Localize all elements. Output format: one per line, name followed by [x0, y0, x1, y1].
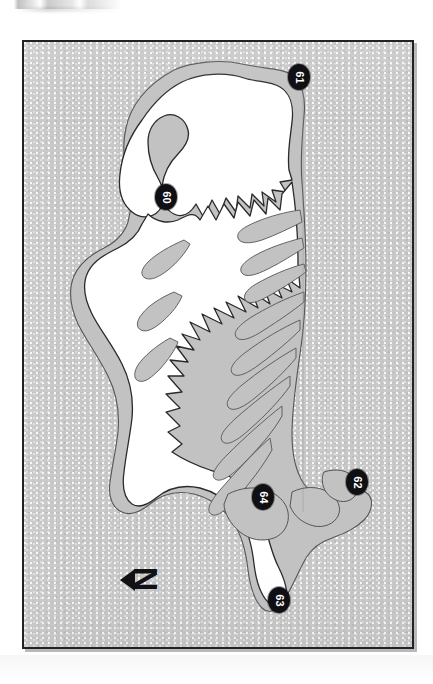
site-marker-62[interactable]: 62: [346, 469, 368, 495]
site-marker-60[interactable]: 60: [155, 184, 177, 210]
scan-artifact-top-secondary: [16, 7, 120, 12]
site-marker-64[interactable]: 64: [252, 484, 274, 510]
figure-page: 60 61 62 63 64 N: [0, 0, 433, 684]
map-coastline-svg: [24, 42, 412, 647]
site-marker-60-label: 60: [160, 191, 171, 204]
map-figure: 60 61 62 63 64 N: [22, 40, 414, 649]
site-marker-62-label: 62: [351, 476, 362, 489]
site-marker-61[interactable]: 61: [288, 64, 310, 90]
site-marker-61-label: 61: [293, 71, 304, 84]
map-frame: 60 61 62 63 64 N: [22, 40, 414, 649]
north-arrow: N: [120, 562, 170, 600]
scan-artifact-bottom: [0, 655, 433, 684]
site-marker-63-label: 63: [273, 594, 284, 607]
site-marker-64-label: 64: [257, 491, 268, 504]
north-arrow-label: N: [129, 567, 163, 592]
site-marker-63[interactable]: 63: [268, 587, 290, 613]
